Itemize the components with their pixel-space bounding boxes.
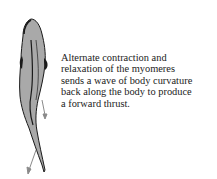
figure-caption: Alternate contraction and relaxation of … <box>61 52 217 109</box>
caption-line: relaxation of the myomeres <box>61 63 217 74</box>
caption-line: sends a wave of body curvature <box>61 75 217 86</box>
fish-body <box>20 19 46 172</box>
fish-locomotion-figure: Alternate contraction and relaxation of … <box>0 0 217 179</box>
caption-line: Alternate contraction and <box>61 52 217 63</box>
caption-line: back along the body to produce <box>61 86 217 97</box>
thrust-arrow-lower <box>27 150 36 174</box>
caption-line: a forward thrust. <box>61 98 217 109</box>
thrust-arrow-upper <box>42 100 47 119</box>
